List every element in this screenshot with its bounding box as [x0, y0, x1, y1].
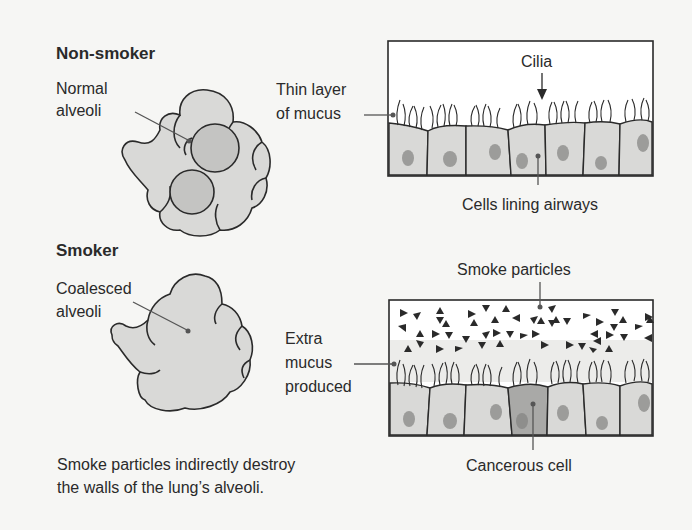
smoker-heading: Smoker [56, 241, 118, 261]
coalesced-alveoli-label-line2: alveoli [56, 302, 101, 322]
normal-alveoli-label-line1: Normal [56, 79, 108, 99]
coalesced-alveoli [111, 274, 252, 411]
coalesced-alveoli-label-line1: Coalesced [56, 279, 132, 299]
extra-mucus-label-line3: produced [285, 377, 352, 397]
normal-alveoli-label-line2: alveoli [56, 101, 101, 121]
extra-mucus-label-line2: mucus [285, 353, 332, 373]
non-smoker-heading: Non-smoker [56, 44, 155, 64]
thin-mucus-label-line2: of mucus [276, 104, 341, 124]
thin-mucus-label-line1: Thin layer [276, 80, 346, 100]
cells-lining-airways-label: Cells lining airways [462, 195, 598, 215]
smoker-airway-panel [354, 282, 654, 450]
normal-airway-panel [364, 41, 653, 185]
caption-line2: the walls of the lung’s alveoli. [57, 478, 264, 498]
smoke-particles-label: Smoke particles [457, 260, 571, 280]
extra-mucus-label-line1: Extra [285, 329, 322, 349]
normal-alveoli-cluster [122, 90, 270, 236]
cancerous-cell [508, 384, 548, 435]
caption-line1: Smoke particles indirectly destroy [57, 455, 295, 475]
cilia-label: Cilia [521, 52, 552, 72]
cancerous-cell-label: Cancerous cell [466, 456, 572, 476]
